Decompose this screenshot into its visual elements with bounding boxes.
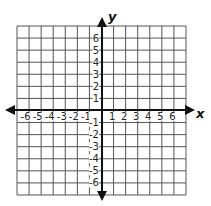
x-tick-label: -2 (69, 111, 79, 122)
y-tick-label: 3 (93, 69, 99, 80)
y-tick-label: 4 (93, 57, 99, 68)
y-tick-label: 5 (93, 45, 99, 56)
x-axis-label: x (195, 106, 205, 121)
x-tick-label: 1 (109, 111, 115, 122)
x-axis-right-arrow-icon (185, 105, 195, 115)
x-tick-label: 6 (169, 111, 175, 122)
x-tick-label: 5 (157, 111, 163, 122)
x-axis-left-arrow-icon (5, 105, 15, 115)
x-tick-label: -5 (33, 111, 43, 122)
y-axis-down-arrow-icon (97, 191, 107, 201)
x-tick-label: -4 (45, 111, 55, 122)
y-tick-label: -1 (89, 117, 99, 128)
y-tick-label: -2 (89, 129, 99, 140)
x-tick-label: -6 (21, 111, 31, 122)
x-tick-label: -3 (57, 111, 67, 122)
y-axis-up-arrow-icon (97, 17, 107, 27)
x-tick-label: 3 (133, 111, 139, 122)
y-tick-label: 6 (93, 33, 99, 44)
y-tick-label: 1 (93, 93, 99, 104)
axes (5, 17, 195, 201)
y-tick-label: 2 (93, 81, 99, 92)
y-tick-label: -3 (89, 141, 99, 152)
x-tick-label: 4 (145, 111, 151, 122)
y-tick-label: -5 (89, 165, 99, 176)
y-axis-label: y (108, 9, 117, 24)
y-tick-label: -6 (89, 177, 99, 188)
y-tick-label: -4 (89, 153, 99, 164)
coordinate-plane: y x -6-5-4-3-2-1123456 654321-1-2-3-4-5-… (0, 0, 211, 206)
x-tick-label: 2 (121, 111, 127, 122)
